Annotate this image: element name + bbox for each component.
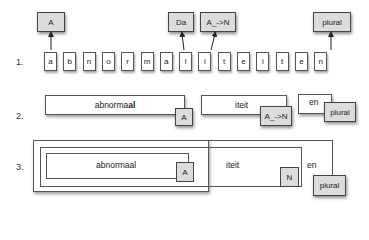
letter-box: a: [160, 52, 173, 71]
letter-box: a: [44, 52, 57, 71]
segment-abnormaal-text: abnormaal: [95, 100, 136, 110]
letter-box: t: [218, 52, 231, 71]
letter-box: r: [121, 52, 134, 71]
letter-box: l: [179, 52, 192, 71]
row3-tag-a: A: [176, 162, 194, 182]
letter-box: i: [198, 52, 211, 71]
letter-box: t: [276, 52, 289, 71]
row3-text-iteit: iteit: [226, 160, 239, 170]
letter-box: i: [256, 52, 269, 71]
row3-text-abnormaal: abnormaal: [96, 160, 136, 170]
letter-box: m: [141, 52, 154, 71]
segment-tag-plural: plural: [324, 102, 356, 122]
segment-tag-a-to-n: A_->N: [260, 106, 292, 126]
letter-box: e: [295, 52, 308, 71]
letter-box: o: [102, 52, 115, 71]
segment-abnormaal: abnormaal: [45, 95, 185, 115]
letter-box: e: [237, 52, 250, 71]
row3-text-en: en: [307, 160, 316, 170]
arrow-to-tag-a-to-n: [211, 34, 215, 50]
letter-box: n: [83, 52, 96, 71]
segment-tag-a: A: [175, 108, 193, 126]
row3-tag-n: N: [280, 167, 299, 187]
letter-box: b: [63, 52, 76, 71]
arrow-to-tag-da: [182, 34, 184, 50]
row3-tag-plural: plural: [313, 175, 346, 196]
letter-box: n: [314, 52, 327, 71]
